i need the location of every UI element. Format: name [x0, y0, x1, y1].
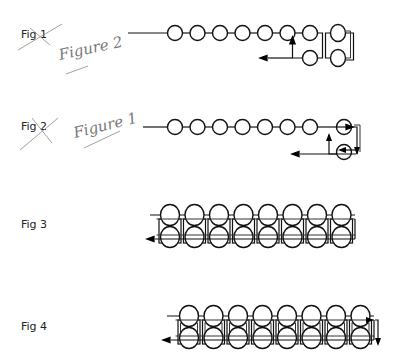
fig1-handwritten-label: Figure 2: [56, 33, 124, 64]
bead: [351, 328, 370, 349]
bead: [253, 306, 272, 327]
bead: [190, 120, 205, 135]
bead: [332, 205, 351, 226]
bead: [331, 25, 346, 42]
thread-path: [326, 33, 331, 58]
bead: [258, 26, 273, 41]
bead: [204, 328, 223, 349]
fig2-diagram: [143, 120, 360, 160]
bead: [327, 306, 346, 327]
bead: [180, 328, 199, 349]
bead: [332, 227, 351, 248]
bead: [302, 306, 321, 327]
fig4-diagram: [161, 306, 381, 349]
bead: [327, 328, 346, 349]
thread-path: [346, 33, 354, 60]
arrow-left-icon: [161, 336, 171, 343]
bead: [308, 227, 327, 248]
bead: [235, 120, 250, 135]
fig3-label: Fig 3: [21, 218, 47, 231]
arrow-left-icon: [290, 150, 300, 157]
bead-weaving-diagram: Fig 1 Figure 2 Fig 2 Figure 1 Fig 3 Fig …: [0, 0, 396, 364]
fig3-diagram: [145, 205, 355, 248]
fig1-underline: [66, 66, 88, 74]
bead: [185, 227, 204, 248]
fig2-label: Fig 2: [21, 120, 47, 133]
bead: [180, 306, 199, 327]
thread-path: [346, 31, 351, 58]
bead: [210, 205, 229, 226]
fig1-diagram: [128, 25, 354, 67]
bead: [161, 227, 180, 248]
bead: [229, 328, 248, 349]
bead: [278, 306, 297, 327]
bead: [168, 120, 183, 135]
bead: [213, 26, 228, 41]
bead: [234, 227, 253, 248]
bead: [190, 26, 205, 41]
thread-path: [318, 33, 323, 58]
bead: [302, 328, 321, 349]
bead: [280, 120, 295, 135]
bead: [308, 205, 327, 226]
bead: [235, 26, 250, 41]
fig2-handwritten-label: Figure 1: [71, 109, 139, 142]
arrow-up-icon: [326, 133, 332, 141]
bead: [283, 227, 302, 248]
bead: [351, 306, 370, 327]
bead: [303, 51, 318, 66]
bead: [259, 205, 278, 226]
bead: [185, 205, 204, 226]
bead: [204, 306, 223, 327]
bead: [213, 120, 228, 135]
bead: [161, 205, 180, 226]
bead: [229, 306, 248, 327]
bead: [253, 328, 272, 349]
bead: [331, 50, 346, 67]
bead: [234, 205, 253, 226]
bead: [278, 328, 297, 349]
bead: [210, 227, 229, 248]
bead: [303, 26, 318, 41]
arrow-down-icon: [375, 338, 381, 346]
bead: [259, 227, 278, 248]
bead: [283, 205, 302, 226]
arrow-left-icon: [145, 235, 155, 242]
arrow-left-icon: [258, 54, 268, 61]
bead: [303, 120, 318, 135]
fig4-label: Fig 4: [21, 320, 47, 333]
bead: [168, 26, 183, 41]
bead: [258, 120, 273, 135]
